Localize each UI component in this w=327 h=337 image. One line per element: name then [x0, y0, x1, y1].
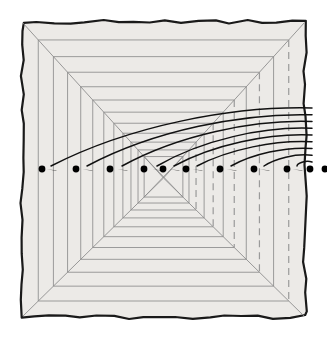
figure-root [0, 0, 327, 337]
horizon-dot-0 [39, 166, 46, 173]
perspective-corridor-diagram [0, 0, 327, 337]
horizon-dot-6 [217, 166, 224, 173]
horizon-dot-4 [160, 166, 167, 173]
horizon-dot-9 [307, 166, 314, 173]
horizon-dot-3 [141, 166, 148, 173]
horizon-dot-10 [322, 166, 327, 173]
horizon-dot-2 [107, 166, 114, 173]
horizon-dot-5 [183, 166, 190, 173]
horizon-dot-8 [284, 166, 291, 173]
horizon-dot-1 [73, 166, 80, 173]
horizon-dot-7 [251, 166, 258, 173]
